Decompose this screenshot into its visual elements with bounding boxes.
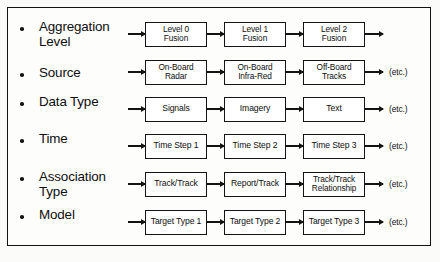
etc-label: (etc.) [383,67,407,77]
arrow-right-icon [365,217,383,227]
arrow-right-icon [207,67,224,77]
page-background: Aggregation LevelLevel 0 FusionLevel 1 F… [0,0,440,262]
arrow-right-icon [207,29,224,39]
arrow-right-icon [207,141,224,151]
flow-box[interactable]: Time Step 3 [303,134,365,159]
bullet-icon [20,208,29,219]
arrow-right-icon [365,104,383,114]
diagram-frame: Aggregation LevelLevel 0 FusionLevel 1 F… [7,7,431,246]
row-label-group: Data Type [20,95,142,110]
etc-label: (etc.) [383,104,407,114]
flow-box[interactable]: Imagery [224,97,286,122]
flow-box[interactable]: Track/Track [145,172,207,197]
diagram-row: Association TypeTrack/TrackReport/TrackT… [8,164,432,204]
flow-box[interactable]: Text [303,97,365,122]
row-label-group: Source [20,66,142,81]
flow-box[interactable]: Report/Track [224,172,286,197]
row-label: Aggregation Level [29,20,110,49]
etc-label: (etc.) [383,217,407,227]
row-label-group: Association Type [20,170,142,199]
row-label-group: Model [20,208,142,223]
flow-chain: Target Type 1Target Type 2Target Type 3(… [128,202,407,242]
arrow-right-icon [128,217,145,227]
bullet-icon [20,20,29,31]
bullet-icon [20,132,29,143]
flow-box[interactable]: Target Type 2 [224,210,286,235]
arrow-right-icon [207,104,224,114]
flow-chain: Level 0 FusionLevel 1 FusionLevel 2 Fusi… [128,14,389,54]
flow-box[interactable]: Signals [145,97,207,122]
flow-box[interactable]: On-Board Radar [145,60,207,85]
arrow-right-icon [365,179,383,189]
arrow-right-icon [128,67,145,77]
flow-box[interactable]: Level 2 Fusion [303,22,365,47]
row-label: Data Type [29,95,98,110]
arrow-right-icon [128,104,145,114]
flow-box[interactable]: Time Step 1 [145,134,207,159]
etc-label: (etc.) [383,179,407,189]
arrow-right-icon [286,67,303,77]
arrow-right-icon [286,179,303,189]
diagram-row: ModelTarget Type 1Target Type 2Target Ty… [8,202,432,242]
arrow-right-icon [286,217,303,227]
etc-label: (etc.) [383,141,407,151]
flow-box[interactable]: Track/Track Relationship [303,172,365,197]
arrow-right-icon [365,67,383,77]
flow-box[interactable]: Target Type 3 [303,210,365,235]
row-label: Time [29,132,68,147]
arrow-right-icon [128,141,145,151]
flow-box[interactable]: Level 1 Fusion [224,22,286,47]
row-label: Model [29,208,75,223]
arrow-right-icon [128,29,145,39]
flow-chain: Time Step 1Time Step 2Time Step 3(etc.) [128,126,407,166]
flow-chain: On-Board RadarOn-Board Infra-RedOff-Boar… [128,52,407,92]
diagram-row: Data TypeSignalsImageryText(etc.) [8,89,432,129]
arrow-right-icon [365,29,383,39]
flow-chain: Track/TrackReport/TrackTrack/Track Relat… [128,164,407,204]
arrow-right-icon [207,217,224,227]
arrow-right-icon [286,141,303,151]
flow-box[interactable]: Off-Board Tracks [303,60,365,85]
bullet-icon [20,66,29,77]
flow-chain: SignalsImageryText(etc.) [128,89,407,129]
flow-box[interactable]: Target Type 1 [145,210,207,235]
bullet-icon [20,95,29,106]
arrow-right-icon [207,179,224,189]
flow-box[interactable]: Time Step 2 [224,134,286,159]
flow-box[interactable]: Level 0 Fusion [145,22,207,47]
arrow-right-icon [365,141,383,151]
arrow-right-icon [286,104,303,114]
row-label-group: Aggregation Level [20,20,142,49]
row-label: Association Type [29,170,106,199]
diagram-row: TimeTime Step 1Time Step 2Time Step 3(et… [8,126,432,166]
diagram-row: SourceOn-Board RadarOn-Board Infra-RedOf… [8,52,432,92]
diagram-row: Aggregation LevelLevel 0 FusionLevel 1 F… [8,14,432,54]
row-label-group: Time [20,132,142,147]
flow-box[interactable]: On-Board Infra-Red [224,60,286,85]
row-label: Source [29,66,81,81]
arrow-right-icon [128,179,145,189]
bullet-icon [20,170,29,181]
arrow-right-icon [286,29,303,39]
